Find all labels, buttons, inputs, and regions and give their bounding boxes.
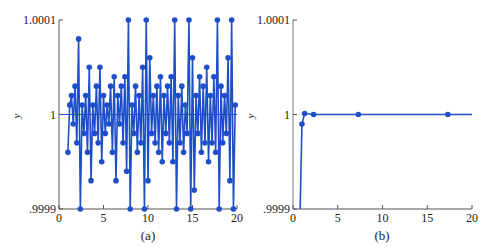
data-point <box>218 83 224 89</box>
data-point <box>197 74 203 80</box>
data-point <box>158 74 164 80</box>
data-point <box>99 159 105 165</box>
series-a <box>59 17 238 212</box>
data-point <box>72 83 78 89</box>
data-point <box>120 140 126 146</box>
y-axis-label-b: y <box>244 113 256 119</box>
data-point <box>188 206 194 212</box>
data-point <box>184 131 190 137</box>
data-point <box>142 206 148 212</box>
data-point <box>147 55 153 61</box>
data-point <box>70 121 76 127</box>
data-point <box>170 159 176 165</box>
data-point <box>174 206 180 212</box>
data-point <box>124 168 130 174</box>
data-point <box>106 121 112 127</box>
data-point <box>104 102 110 108</box>
data-point <box>135 150 141 156</box>
data-point <box>95 140 101 146</box>
data-point <box>179 83 185 89</box>
data-point <box>126 17 132 23</box>
panel-b: 05101520 .999911.0001 y (b) <box>244 13 478 243</box>
x-tick-label: 15 <box>187 211 199 225</box>
data-point <box>129 102 135 108</box>
data-point <box>208 93 214 99</box>
data-point <box>209 140 215 146</box>
y-tick-label: 1 <box>284 108 290 122</box>
data-point <box>152 140 158 146</box>
data-point <box>81 131 87 137</box>
data-point <box>94 83 100 89</box>
x-tick-label: 5 <box>101 211 107 225</box>
data-point <box>225 55 231 61</box>
data-point <box>79 102 85 108</box>
data-point <box>231 206 237 212</box>
x-tick-label: 15 <box>421 211 433 225</box>
x-tick-label: 0 <box>290 211 296 225</box>
data-point <box>65 150 71 156</box>
data-point <box>133 83 139 89</box>
y-ticks-b: .999911.0001 <box>257 13 297 216</box>
data-point <box>302 111 308 117</box>
data-point <box>213 150 219 156</box>
data-point <box>190 55 196 61</box>
data-point <box>227 178 233 184</box>
data-point <box>117 121 123 127</box>
x-tick-label: 10 <box>142 211 154 225</box>
data-point <box>69 93 75 99</box>
x-tick-label: 20 <box>466 211 478 225</box>
y-tick-label: .9999 <box>263 202 290 216</box>
data-point <box>136 93 142 99</box>
x-tick-label: 0 <box>56 211 62 225</box>
data-point <box>151 93 157 99</box>
data-point <box>115 93 121 99</box>
data-point <box>76 36 82 42</box>
data-point <box>122 74 128 80</box>
data-point <box>191 187 197 193</box>
x-tick-label: 20 <box>231 211 243 225</box>
data-point <box>183 102 189 108</box>
data-point <box>199 150 205 156</box>
data-point <box>140 64 146 70</box>
data-point <box>131 131 137 137</box>
data-point <box>102 131 108 137</box>
data-point <box>356 112 362 118</box>
data-point <box>177 140 183 146</box>
y-tick-label: 1.0001 <box>257 13 290 27</box>
caption-b: (b) <box>374 228 389 243</box>
data-point <box>232 102 238 108</box>
data-point <box>67 102 73 108</box>
data-point <box>161 93 167 99</box>
data-point <box>206 159 212 165</box>
data-point <box>163 131 169 137</box>
data-point <box>202 140 208 146</box>
panel-a: 05101520 .999911.0001 y (a) <box>10 13 243 243</box>
data-point <box>224 131 230 137</box>
data-point <box>154 83 160 89</box>
x-tick-label: 5 <box>335 211 341 225</box>
data-point <box>85 150 91 156</box>
data-point <box>204 64 210 70</box>
data-point <box>172 17 178 23</box>
x-tick-label: 10 <box>377 211 389 225</box>
data-point <box>156 150 162 156</box>
data-point <box>97 64 103 70</box>
data-point <box>74 140 80 146</box>
data-point <box>195 131 201 137</box>
data-point <box>181 150 187 156</box>
data-point <box>83 93 89 99</box>
data-point <box>108 83 114 89</box>
data-point <box>127 206 133 212</box>
data-point <box>222 93 228 99</box>
y-tick-label: 1 <box>50 108 56 122</box>
data-point <box>86 64 92 70</box>
y-tick-label: .9999 <box>29 202 56 216</box>
data-point <box>200 83 206 89</box>
data-point <box>311 112 317 118</box>
figure: 05101520 .999911.0001 y (a) 05101520 .99… <box>0 0 490 248</box>
data-point <box>229 17 235 23</box>
data-point <box>145 178 151 184</box>
data-point <box>149 131 155 137</box>
data-point <box>211 74 217 80</box>
y-ticks-a: .999911.0001 <box>23 13 63 216</box>
